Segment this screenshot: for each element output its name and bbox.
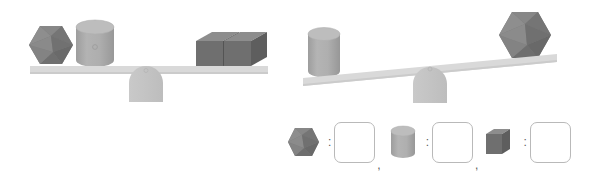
cube-pair-right-pan <box>196 32 267 66</box>
pair-colon-3: : <box>523 136 526 148</box>
pair-comma-2: , <box>475 159 478 171</box>
answer-pair-cylinder: : <box>383 119 473 165</box>
pair-colon-2: : <box>426 136 429 148</box>
scale-right <box>303 12 557 103</box>
answer-box-cylinder[interactable] <box>432 122 473 163</box>
icosahedron-left-pan <box>29 26 73 64</box>
icosahedron-icon <box>285 119 325 165</box>
fulcrum-left-scale <box>129 66 163 102</box>
cylinder-left-pan <box>76 20 114 67</box>
answer-box-cube[interactable] <box>530 122 571 163</box>
answer-pair-cube: : <box>480 119 570 165</box>
answer-pair-icosahedron: : <box>285 119 375 165</box>
cylinder-icon <box>383 119 423 165</box>
cylinder-left-pan-2 <box>308 28 340 78</box>
scale-left <box>29 20 268 102</box>
icosahedron-right-pan-2 <box>499 12 551 58</box>
answer-box-icosahedron[interactable] <box>334 122 375 163</box>
puzzle-figure: : , : , <box>0 0 599 176</box>
fulcrum-right-scale <box>413 67 447 103</box>
cube-icon <box>480 119 520 165</box>
pair-comma-1: , <box>377 159 380 171</box>
pair-colon-1: : <box>328 136 331 148</box>
answer-row: : , : , <box>285 113 595 171</box>
